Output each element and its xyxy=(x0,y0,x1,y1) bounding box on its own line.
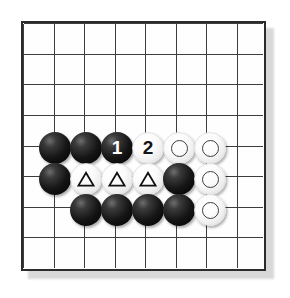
circle-marker-icon xyxy=(202,140,219,157)
stone-black-c3r7[interactable] xyxy=(70,194,102,226)
go-diagram-screenshot: 12 xyxy=(0,0,290,298)
stone-black-c6r7[interactable] xyxy=(163,194,195,226)
stone-white-c7r5[interactable] xyxy=(194,132,226,164)
stone-white-c5r5[interactable]: 2 xyxy=(132,132,164,164)
circle-marker-icon xyxy=(202,202,219,219)
stone-white-c7r6[interactable] xyxy=(194,163,226,195)
stone-black-c4r5[interactable]: 1 xyxy=(101,132,133,164)
stone-white-c3r6[interactable] xyxy=(70,163,102,195)
stone-white-c6r5[interactable] xyxy=(163,132,195,164)
circle-marker-icon xyxy=(202,171,219,188)
circle-marker-icon xyxy=(171,140,188,157)
stone-white-c5r6[interactable] xyxy=(132,163,164,195)
triangle-marker-icon xyxy=(139,171,157,187)
stone-black-c2r6[interactable] xyxy=(39,163,71,195)
stone-move-number: 2 xyxy=(143,138,154,157)
stone-move-number: 1 xyxy=(112,138,123,157)
triangle-marker-icon xyxy=(77,171,95,187)
stone-black-c5r7[interactable] xyxy=(132,194,164,226)
stone-white-c7r7[interactable] xyxy=(194,194,226,226)
stone-layer: 12 xyxy=(23,23,264,269)
stone-black-c2r5[interactable] xyxy=(39,132,71,164)
stone-black-c4r7[interactable] xyxy=(101,194,133,226)
stone-black-c3r5[interactable] xyxy=(70,132,102,164)
triangle-marker-icon xyxy=(108,171,126,187)
stone-white-c4r6[interactable] xyxy=(101,163,133,195)
stone-black-c6r6[interactable] xyxy=(163,163,195,195)
go-board[interactable]: 12 xyxy=(21,21,266,271)
